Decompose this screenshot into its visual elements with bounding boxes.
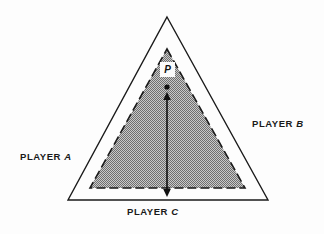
triangle-diagram-figure: P PLAYER A PLAYER B PLAYER C — [0, 0, 324, 234]
point-p-label: P — [164, 65, 171, 75]
label-player-a-letter: A — [64, 151, 71, 162]
label-player-c-text: PLAYER — [127, 206, 168, 217]
arrowhead-down-icon — [163, 189, 171, 197]
point-p-label-box: P — [160, 62, 175, 77]
label-player-c-letter: C — [171, 206, 178, 217]
point-p-marker — [164, 84, 169, 89]
label-player-a: PLAYER A — [20, 152, 72, 162]
label-player-c: PLAYER C — [127, 207, 179, 217]
label-player-b-letter: B — [296, 118, 303, 129]
label-player-a-text: PLAYER — [20, 151, 61, 162]
label-player-b: PLAYER B — [252, 119, 304, 129]
label-player-b-text: PLAYER — [252, 118, 293, 129]
diagram-canvas — [0, 0, 324, 234]
